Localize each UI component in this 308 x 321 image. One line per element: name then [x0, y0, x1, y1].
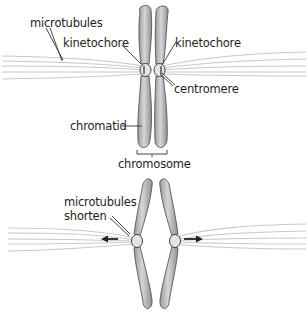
label-centromere: centromere	[174, 83, 239, 96]
label-kinetochore-left: kinetochore	[63, 37, 129, 50]
microtubules-right-top	[162, 52, 306, 76]
microtubules-right-bottom	[174, 224, 306, 249]
label-microtubules-shorten-line2: shorten	[64, 210, 107, 223]
label-chromatid: chromatid	[70, 120, 127, 133]
kinetochore-knobs-bottom	[132, 235, 181, 248]
label-kinetochore-right: kinetochore	[175, 37, 241, 50]
microtubules-left-top	[2, 56, 142, 79]
label-microtubules: microtubules	[30, 17, 102, 30]
leader-lines-bottom	[110, 216, 130, 236]
label-chromosome: chromosome	[118, 158, 191, 171]
chromosome-brace	[137, 150, 167, 157]
label-microtubules-shorten-line1: microtubules	[64, 196, 136, 209]
diagram-canvas: microtubules kinetochore kinetochore cen…	[0, 0, 308, 321]
